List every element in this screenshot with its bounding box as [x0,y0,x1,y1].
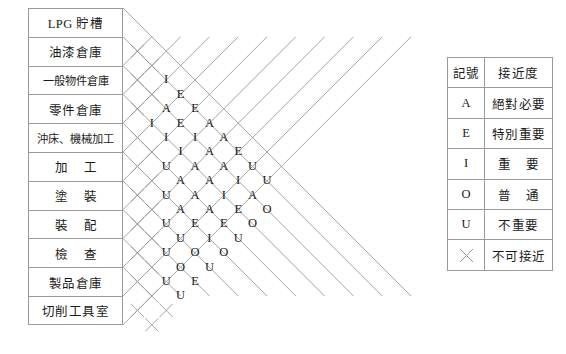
svg-text:E: E [234,202,242,216]
relationship-cell-6-10: O [176,260,185,274]
relationship-cell-x-icon-7-9 [145,261,158,274]
svg-text:A: A [205,173,214,187]
relationship-cell-4-7: U [162,188,171,202]
relationship-cell-x-icon-3-4 [131,131,144,144]
relationship-cell-2-7: A [190,159,199,173]
relationship-cell-x-icon-0-2 [145,59,158,72]
svg-text:E: E [177,87,185,101]
relationship-cell-3-7: A [176,173,185,187]
svg-text:U: U [162,216,171,230]
activity-label-0: LPG 貯槽 [28,8,123,37]
relationship-cell-0-7: A [219,130,228,144]
svg-text:I: I [179,144,183,158]
activity-label-5: 加工 [28,152,123,181]
activity-label-4: 沖床、機械加工 [28,123,123,152]
relationship-cell-5-10: O [190,245,199,259]
legend-symbol-i: I [448,149,485,178]
relationship-cell-1-7: A [205,144,214,158]
svg-text:U: U [162,188,171,202]
relationship-cell-1-11: O [262,202,271,216]
relationship-cell-1-6: I [193,130,197,144]
relationship-cell-6-11: E [191,274,199,288]
relationship-cell-x-icon-6-8 [145,232,158,245]
legend-row-u: U不重要 [448,210,552,240]
legend-row-x: 不可接近 [448,240,552,269]
relationship-cell-x-icon-5-6 [131,189,144,202]
relationship-cell-5-9: U [176,231,185,245]
relationship-cell-7-11: U [176,288,185,302]
relationship-cell-4-9: E [191,216,199,230]
svg-text:A: A [176,202,185,216]
svg-text:E: E [191,274,199,288]
relationship-cell-2-6: I [179,144,183,158]
activity-label-column: LPG 貯槽油漆倉庫一般物件倉庫零件倉庫沖床、機械加工加工塗裝裝配檢查製品倉庫切… [28,8,123,325]
legend-row-i: I重要 [448,149,552,179]
relationship-cell-1-10: A [248,188,257,202]
svg-text:I: I [193,130,197,144]
svg-text:U: U [234,231,243,245]
svg-text:E: E [191,216,199,230]
svg-text:O: O [176,260,185,274]
activity-label-6: 塗裝 [28,181,123,210]
svg-text:I: I [150,116,154,130]
svg-text:A: A [219,130,228,144]
relationship-cell-0-5: E [191,101,199,115]
relationship-cell-4-8: A [176,202,185,216]
relationship-cell-x-icon-9-11 [145,318,158,331]
svg-text:A: A [162,101,171,115]
svg-text:U: U [248,159,257,173]
relationship-cell-0-6: A [205,116,214,130]
svg-text:A: A [190,188,199,202]
closeness-legend-table: 記號 接近度 A絕對必要E特別重要I重要O普通U不重要不可接近 [447,57,553,271]
legend-row-o: O普通 [448,180,552,210]
svg-text:I: I [164,72,168,86]
legend-row-e: E特別重要 [448,119,552,149]
svg-text:A: A [205,116,214,130]
svg-text:U: U [262,173,271,187]
svg-text:U: U [176,231,185,245]
relationship-cell-1-8: A [219,159,228,173]
legend-row-a: A絕對必要 [448,88,552,118]
svg-text:O: O [219,245,228,259]
legend-description-o: 普通 [485,180,552,209]
relationship-cell-x-icon-7-8 [131,246,144,259]
activity-label-3: 零件倉庫 [28,94,123,123]
svg-text:E: E [234,144,242,158]
relationship-cell-3-8: A [190,188,199,202]
svg-text:A: A [205,144,214,158]
activity-label-1: 油漆倉庫 [28,37,123,66]
relationship-cell-5-11: U [205,260,214,274]
relationship-cell-1-5: E [177,116,185,130]
relationship-cell-4-11: O [219,245,228,259]
legend-header-symbol: 記號 [448,58,485,87]
relationship-cell-1-9: I [236,173,240,187]
svg-text:A: A [205,202,214,216]
relationship-cell-x-icon-4-5 [131,160,144,173]
relationship-cell-x-icon-9-10 [131,304,144,317]
legend-description-x: 不可接近 [485,240,552,269]
relationship-cell-1-4: A [162,101,171,115]
legend-symbol-e: E [448,119,485,148]
relationship-cell-0-8: E [234,144,242,158]
relationship-cells: IEEAAEUUAEIAAIAOIIIAAIEOUAAAEUUAEIOUUOUU… [131,45,272,332]
relationship-cell-x-icon-6-7 [131,217,144,230]
relationship-cell-0-4: E [177,87,185,101]
relationship-cell-0-3: I [164,72,168,86]
activity-label-8: 檢查 [28,238,123,267]
svg-text:E: E [220,216,228,230]
svg-text:E: E [191,101,199,115]
svg-text:O: O [248,216,257,230]
relationship-cell-0-9: U [248,159,257,173]
relationship-chart-page: LPG 貯槽油漆倉庫一般物件倉庫零件倉庫沖床、機械加工加工塗裝裝配檢查製品倉庫切… [0,0,566,354]
relationship-cell-x-icon-8-11 [160,304,173,317]
legend-symbol-a: A [448,88,485,117]
relationship-cell-x-icon-8-9 [131,275,144,288]
legend-description-i: 重要 [485,149,552,178]
relationship-cell-3-11: U [234,231,243,245]
svg-text:I: I [222,188,226,202]
svg-text:I: I [236,173,240,187]
relationship-cell-7-10: U [162,274,171,288]
relationship-cell-2-4: I [150,116,154,130]
relationship-cell-x-icon-1-3 [145,88,158,101]
legend-symbol-o: O [448,180,485,209]
